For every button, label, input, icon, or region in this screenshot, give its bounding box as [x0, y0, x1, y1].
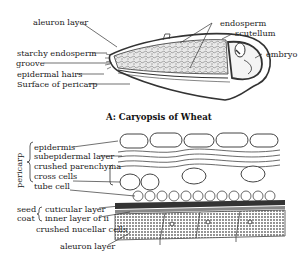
figure-title: A: Caryopsis of Wheat	[106, 112, 212, 122]
label-tube-cell: tube cell	[34, 182, 70, 191]
label-cross-cells: cross cells	[34, 172, 77, 181]
label-crushed-parenchyma: crushed parenchyma	[34, 162, 121, 171]
label-inner-layer-of-ii: inner layer of ii	[45, 214, 109, 223]
label-embryo: embryo	[266, 50, 297, 59]
label-pericarp-group: pericarp	[14, 153, 24, 188]
label-endosperm: endosperm	[220, 19, 266, 28]
label-aleuron-layer-top: aleuron layer	[33, 18, 88, 27]
pericarp-section	[115, 133, 285, 245]
label-coat-group: coat	[17, 214, 35, 223]
label-subepidermal-layer: subepidermal layer	[34, 152, 114, 161]
label-surface-of-pericarp: Surface of pericarp	[17, 80, 98, 89]
label-starchy-endosperm: starchy endosperm	[17, 49, 97, 58]
label-groove: groove	[16, 59, 44, 68]
caryopsis-section	[105, 34, 270, 100]
label-epidermal-hairs: epidermal hairs	[17, 70, 82, 79]
label-aleuron-layer-bottom: aleuron layer	[60, 242, 115, 251]
label-crushed-nucellar-cells: crushed nucellar cells	[36, 225, 127, 234]
label-scutellum: scutellum	[235, 29, 275, 38]
